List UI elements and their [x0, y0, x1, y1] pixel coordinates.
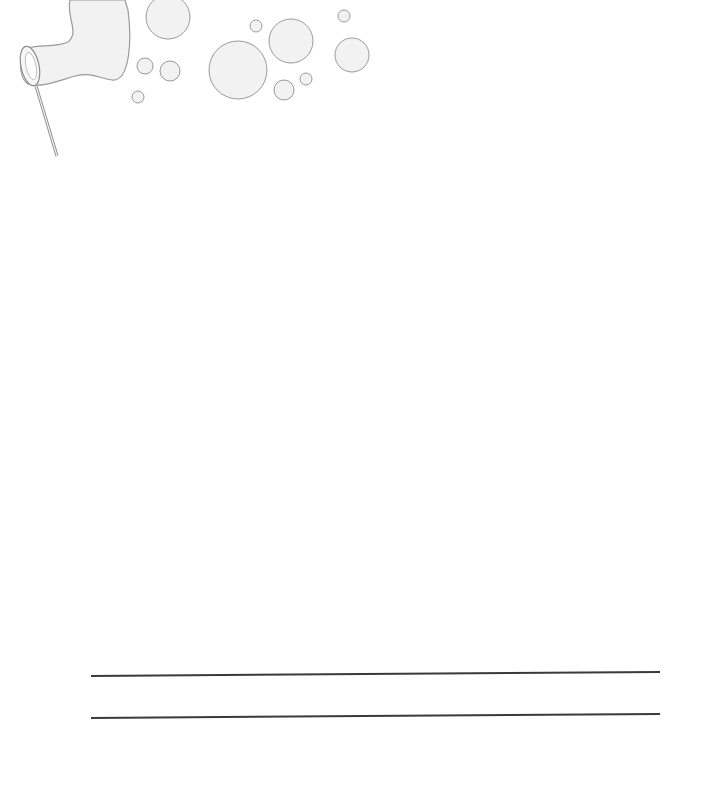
writing-line: [91, 713, 660, 719]
bubble-icon: [132, 91, 144, 103]
bubble-icon: [209, 41, 267, 99]
bubble-icon: [137, 58, 153, 74]
bubble-wand-illustration: [0, 0, 380, 170]
bubble-icon: [146, 0, 190, 39]
bubble-wand-icon: [17, 0, 130, 156]
bubble-icon: [338, 10, 350, 22]
bubble-icon: [274, 80, 294, 100]
bubble-icon: [269, 19, 313, 63]
writing-line: [91, 671, 660, 677]
bubble-icon: [300, 73, 312, 85]
bubble-icon: [335, 38, 369, 72]
bubbles-group: [132, 0, 369, 103]
bubble-icon: [160, 61, 180, 81]
bubble-icon: [250, 20, 262, 32]
